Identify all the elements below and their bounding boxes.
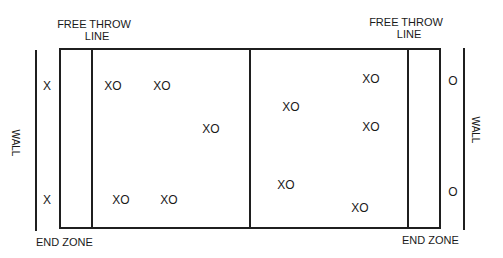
- player-marker: XO: [282, 101, 299, 113]
- center-line: [249, 48, 251, 229]
- player-marker: O: [448, 75, 457, 87]
- player-marker: XO: [362, 121, 379, 133]
- wall-label-right: WALL: [470, 117, 480, 144]
- free-throw-label-right: FREE THROW LINE: [364, 16, 448, 40]
- player-marker: XO: [362, 73, 379, 85]
- player-marker: X: [43, 194, 51, 206]
- end-zone-label-left: END ZONE: [36, 236, 93, 248]
- free-throw-label-left: FREE THROW LINE: [52, 18, 136, 42]
- player-marker: XO: [153, 80, 170, 92]
- player-marker: XO: [351, 202, 368, 214]
- player-marker: XO: [160, 194, 177, 206]
- end-zone-label-right: END ZONE: [402, 234, 459, 246]
- player-marker: XO: [277, 179, 294, 191]
- free-throw-label-left-line2: LINE: [52, 30, 136, 42]
- player-marker: XO: [104, 80, 121, 92]
- left-wall-line: [35, 50, 37, 231]
- free-throw-label-right-line2: LINE: [364, 28, 448, 40]
- court-right-end-line: [439, 48, 441, 229]
- wall-label-left: WALL: [10, 130, 20, 157]
- free-throw-label-left-line1: FREE THROW: [52, 18, 136, 30]
- right-free-throw-line: [407, 48, 409, 229]
- left-free-throw-line: [91, 49, 93, 229]
- free-throw-label-right-line1: FREE THROW: [364, 16, 448, 28]
- court-left-end-line: [59, 49, 61, 229]
- player-marker: X: [43, 80, 51, 92]
- player-marker: XO: [202, 123, 219, 135]
- right-wall-line: [463, 48, 465, 230]
- player-marker: O: [448, 186, 457, 198]
- player-marker: XO: [112, 194, 129, 206]
